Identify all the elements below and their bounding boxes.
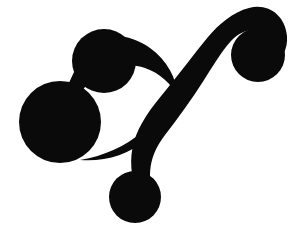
large-dot-terminal (19, 81, 101, 163)
ornamental-flourish-illustration (0, 0, 293, 234)
spiral-curl-terminal (231, 28, 285, 82)
lower-dot-terminal (109, 171, 161, 223)
artwork-canvas (0, 0, 293, 234)
upper-left-dot-terminal (72, 29, 136, 93)
